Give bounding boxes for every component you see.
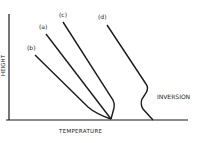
temperature-height-diagram: (b) (a) (c) (d) INVERSION TEMPERATURE HE…: [0, 0, 203, 143]
curve-label-c: (c): [59, 11, 67, 18]
curve-c: [63, 22, 114, 119]
x-axis-label: TEMPERATURE: [58, 128, 103, 134]
curve-label-d: (d): [98, 13, 107, 20]
inversion-label: INVERSION: [157, 93, 190, 100]
curve-label-b: (b): [27, 44, 36, 51]
curve-label-a: (a): [39, 23, 47, 30]
curve-b: [35, 55, 111, 119]
y-axis-label: HEIGHT: [0, 54, 6, 76]
